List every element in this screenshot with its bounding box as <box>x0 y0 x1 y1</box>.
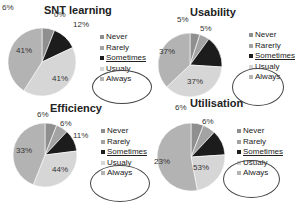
data-label: 41% <box>16 46 32 55</box>
data-label: 6% <box>202 117 214 126</box>
legend-item: Sometimes <box>237 147 283 158</box>
data-label: 23% <box>154 157 170 166</box>
legend-item: Never <box>100 32 146 43</box>
data-label: 6% <box>175 103 187 112</box>
legend-item: Rarely <box>237 137 283 148</box>
legend-swatch-icon <box>100 46 104 50</box>
legend-label: Sometimes <box>106 53 146 64</box>
data-label: 11% <box>73 131 88 140</box>
legend-label: Rarely <box>107 137 130 148</box>
legend-item: Rarely <box>101 137 147 148</box>
legend-item: Sometimes <box>101 147 147 158</box>
data-label: 37% <box>187 77 203 86</box>
legend-swatch-icon <box>249 54 253 58</box>
legend-swatch-icon <box>249 44 253 48</box>
legend-item: Never <box>249 30 295 41</box>
pie-chart-snt-learning: SNT learning6%0%12%41%41%NeverRarelySome… <box>0 0 150 103</box>
legend-label: Rarely <box>106 43 129 54</box>
data-label: 33% <box>16 146 32 155</box>
legend-swatch-icon <box>100 67 104 71</box>
legend-label: Never <box>106 32 127 43</box>
legend-swatch-icon <box>100 56 104 60</box>
legend-swatch-icon <box>101 129 105 133</box>
data-label: 53% <box>193 163 209 172</box>
legend-label: Never <box>243 126 264 137</box>
legend-label: Sometimes <box>255 51 295 62</box>
legend-item: Sometimes <box>249 51 295 62</box>
legend-swatch-icon <box>237 140 241 144</box>
legend-label: Rarely <box>243 137 266 148</box>
legend-swatch-icon <box>101 161 105 165</box>
legend-swatch-icon <box>101 150 105 154</box>
data-label: 41% <box>52 74 68 83</box>
legend-label: Rarerly <box>255 41 281 52</box>
data-label: 5% <box>200 24 212 33</box>
pie-chart-usability: Usability5%5%37%37%NeverRarerlySometimes… <box>150 0 300 103</box>
legend-swatch-icon <box>249 33 253 37</box>
data-label: 6% <box>60 119 72 128</box>
data-label: 37% <box>159 47 175 56</box>
data-label: 6% <box>37 110 49 119</box>
pie-chart-utilisation: Utilisation6%6%23%53%NeverRarelySometime… <box>150 100 300 203</box>
highlight-ellipse <box>92 70 152 104</box>
highlight-ellipse <box>90 165 150 202</box>
highlight-ellipse <box>223 160 280 198</box>
legend-item: Sometimes <box>100 53 146 64</box>
data-label: 6% <box>2 3 14 12</box>
legend-item: Never <box>101 126 147 137</box>
data-label: 12% <box>73 20 89 29</box>
legend-swatch-icon <box>101 140 105 144</box>
legend-swatch-icon <box>237 150 241 154</box>
data-label: 5% <box>177 15 189 24</box>
data-label: 0% <box>54 10 66 19</box>
legend-swatch-icon <box>237 129 241 133</box>
data-label: 44% <box>52 165 68 174</box>
legend-item: Never <box>237 126 283 137</box>
legend-label: Never <box>255 30 276 41</box>
legend-label: Sometimes <box>243 147 283 158</box>
legend-swatch-icon <box>100 35 104 39</box>
pie-chart-efficiency: Efficiency6%6%11%33%44%NeverRarelySometi… <box>0 100 150 203</box>
legend-item: Rarely <box>100 43 146 54</box>
legend-item: Rarerly <box>249 41 295 52</box>
legend-label: Sometimes <box>107 147 147 158</box>
legend-label: Never <box>107 126 128 137</box>
